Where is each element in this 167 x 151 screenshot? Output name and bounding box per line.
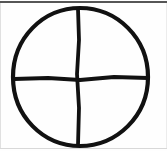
bottom-border-rule: [0, 148, 167, 149]
quartered-circle-drawing: [0, 0, 167, 151]
vertical-divider-line: [77, 9, 79, 145]
figure-canvas: [0, 0, 167, 151]
ink-strokes: [13, 8, 148, 146]
left-border-rule: [0, 3, 1, 148]
right-border-rule: [166, 3, 167, 148]
top-border-rule: [0, 1, 167, 3]
horizontal-divider-line: [14, 77, 148, 80]
